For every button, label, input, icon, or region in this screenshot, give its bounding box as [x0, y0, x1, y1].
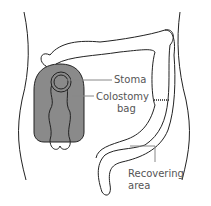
- recovering-area-label-line2: area: [128, 180, 150, 191]
- body-outline-left: [19, 12, 29, 180]
- stoma-label: Stoma: [114, 74, 146, 85]
- colostomy-bag-label-line1: Colostomy: [96, 91, 149, 102]
- stoma-inner: [54, 75, 68, 89]
- body-outline-right: [178, 12, 189, 180]
- colostomy-bag-label-line2: bag: [117, 103, 136, 114]
- recovering-area-label-line1: Recovering: [128, 168, 184, 179]
- recovering-leader-line: [130, 146, 155, 162]
